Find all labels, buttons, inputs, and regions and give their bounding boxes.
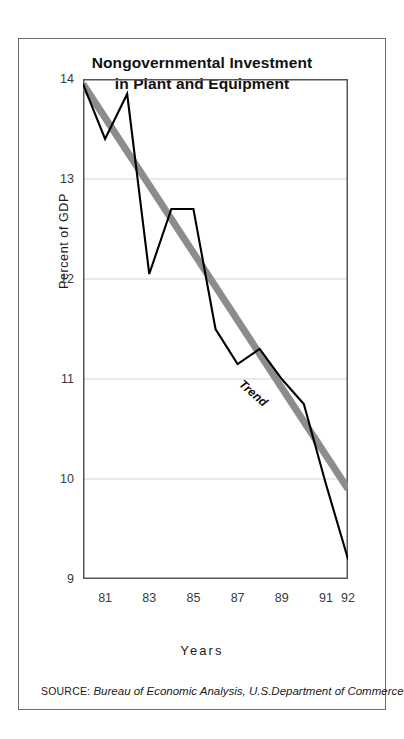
y-tick-label: 14 bbox=[60, 72, 74, 86]
y-tick-label: 13 bbox=[60, 172, 74, 186]
title-line-1: Nongovernmental Investment bbox=[19, 53, 385, 74]
x-tick-label: 81 bbox=[98, 591, 112, 605]
y-tick-label: 12 bbox=[60, 272, 74, 286]
y-axis-title: Percent of GDP bbox=[57, 89, 71, 289]
x-tick-label: 92 bbox=[341, 591, 355, 605]
y-tick-label: 11 bbox=[61, 372, 74, 386]
chart-canvas bbox=[83, 79, 348, 579]
trend-line bbox=[83, 84, 348, 489]
x-tick-label: 83 bbox=[142, 591, 156, 605]
y-tick-label: 9 bbox=[67, 572, 74, 586]
source-prefix: SOURCE: bbox=[41, 685, 90, 697]
plot-area: Percent of GDP 14131211109 8183858789919… bbox=[83, 79, 348, 579]
x-tick-label: 85 bbox=[186, 591, 200, 605]
x-axis-title: Years bbox=[19, 643, 385, 658]
x-tick-label: 89 bbox=[275, 591, 289, 605]
source-text: Bureau of Economic Analysis, U.S.Departm… bbox=[90, 685, 403, 697]
x-tick-label: 91 bbox=[319, 591, 333, 605]
source-note: SOURCE: Bureau of Economic Analysis, U.S… bbox=[41, 685, 371, 697]
x-tick-label: 87 bbox=[231, 591, 245, 605]
y-tick-label: 10 bbox=[60, 472, 74, 486]
figure-card: Nongovernmental Investment in Plant and … bbox=[18, 38, 386, 710]
data-series-line bbox=[83, 84, 348, 559]
